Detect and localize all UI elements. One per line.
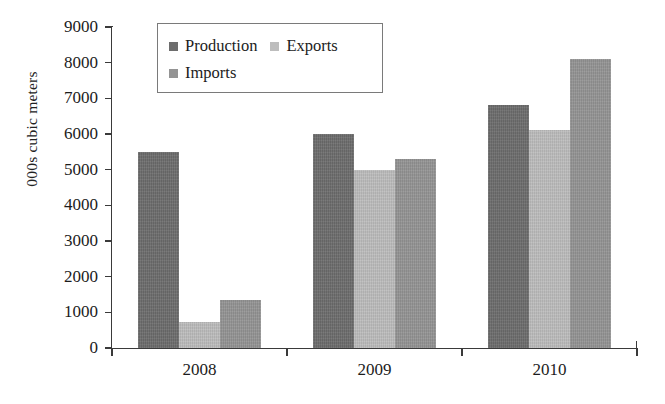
- legend-entry-production[interactable]: Production: [169, 38, 257, 55]
- x-axis-tick: [636, 348, 637, 356]
- y-axis-tick: [105, 312, 112, 313]
- y-axis-tick: [105, 205, 112, 206]
- x-axis-label-2010: 2010: [490, 360, 610, 380]
- bar-exports-2008: [179, 322, 220, 348]
- x-axis-line: [111, 348, 638, 349]
- legend-entry-exports[interactable]: Exports: [270, 38, 337, 55]
- legend-swatch-exports-icon: [270, 42, 279, 51]
- x-axis-label-2009: 2009: [315, 360, 435, 380]
- bar-imports-2008: [220, 300, 261, 348]
- y-axis-tick-label: 5000: [8, 161, 98, 178]
- y-axis-tick: [105, 169, 112, 170]
- y-axis-tick-label: 0: [8, 339, 98, 356]
- y-axis-tick: [105, 276, 112, 277]
- legend-entry-imports[interactable]: Imports: [169, 65, 236, 82]
- y-axis-tick-label: 2000: [8, 268, 98, 285]
- x-axis-tick: [286, 348, 287, 356]
- y-axis-tick: [105, 240, 112, 241]
- y-axis-tick: [105, 133, 112, 134]
- y-axis-tick-label: 9000: [8, 18, 98, 35]
- legend-label-imports: Imports: [185, 65, 236, 82]
- legend-swatch-imports-icon: [169, 69, 178, 78]
- legend-label-production: Production: [185, 38, 257, 55]
- bar-chart: 000s cubic meters 0100020003000400050006…: [0, 0, 665, 404]
- bar-imports-2010: [570, 59, 611, 348]
- x-axis-tick: [461, 348, 462, 356]
- bar-exports-2010: [529, 130, 570, 348]
- y-axis-tick-label: 1000: [8, 303, 98, 320]
- legend-label-exports: Exports: [286, 38, 337, 55]
- legend-row-2: Imports: [169, 60, 382, 87]
- x-axis-tick-origin: [111, 348, 112, 356]
- legend-swatch-production-icon: [169, 42, 178, 51]
- bar-imports-2009: [395, 159, 436, 348]
- bar-production-2008: [138, 152, 179, 348]
- legend: Production Exports Imports: [157, 23, 383, 93]
- bar-production-2010: [488, 105, 529, 348]
- y-axis-tick: [105, 98, 112, 99]
- x-axis-label-2008: 2008: [140, 360, 260, 380]
- y-axis-tick-label: 7000: [8, 89, 98, 106]
- bar-exports-2009: [354, 170, 395, 348]
- legend-row-1: Production Exports: [169, 33, 382, 60]
- bar-production-2009: [313, 134, 354, 348]
- y-axis-tick: [105, 26, 112, 27]
- y-axis-tick-label: 4000: [8, 196, 98, 213]
- y-axis-tick-label: 8000: [8, 54, 98, 71]
- y-axis-tick: [105, 62, 112, 63]
- y-axis-tick-label: 6000: [8, 125, 98, 142]
- y-axis-tick-label: 3000: [8, 232, 98, 249]
